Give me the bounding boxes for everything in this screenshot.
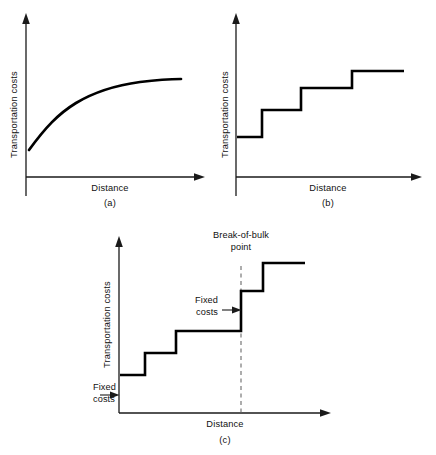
chart-a: Transportation costs Distance (a)	[0, 0, 218, 220]
panel-a: Transportation costs Distance (a)	[0, 0, 218, 220]
fixed-costs-upper-label-line1: Fixed	[195, 295, 218, 305]
panel-caption-a: (a)	[104, 198, 116, 208]
cost-step-b	[237, 71, 404, 137]
figure-sheet: Transportation costs Distance (a) Transp…	[0, 0, 436, 455]
break-of-bulk-label-line1: Break-of-bulk	[213, 230, 269, 240]
x-axis-label-b: Distance	[309, 183, 346, 193]
panel-caption-b: (b)	[322, 198, 334, 208]
x-axis-arrowhead-a	[194, 173, 205, 181]
panel-b: Transportation costs Distance (b)	[218, 0, 436, 220]
y-axis-label-b: Transportation costs	[220, 71, 230, 158]
break-of-bulk-label-line2: point	[231, 242, 252, 252]
y-axis-arrowhead-b	[232, 13, 240, 24]
fixed-costs-lower-label-line1: Fixed	[93, 382, 116, 392]
x-axis-arrowhead-b	[411, 173, 422, 181]
x-axis-arrowhead-c	[320, 409, 331, 417]
x-axis-label-a: Distance	[91, 183, 128, 193]
fixed-costs-upper-label-line2: costs	[196, 307, 218, 317]
panel-c: Break-of-bulk point Fixed costs Fixed co…	[88, 218, 348, 455]
y-axis-label-c: Transportation costs	[102, 281, 112, 368]
x-axis-label-c: Distance	[206, 419, 243, 429]
cost-step-c	[120, 263, 305, 375]
y-axis-arrowhead-a	[22, 13, 30, 24]
cost-curve-a	[29, 79, 181, 150]
chart-c: Break-of-bulk point Fixed costs Fixed co…	[88, 218, 348, 455]
y-axis-arrowhead-c	[115, 236, 123, 247]
y-axis-label-a: Transportation costs	[9, 71, 19, 158]
panel-caption-c: (c)	[219, 435, 230, 445]
chart-b: Transportation costs Distance (b)	[218, 0, 436, 220]
